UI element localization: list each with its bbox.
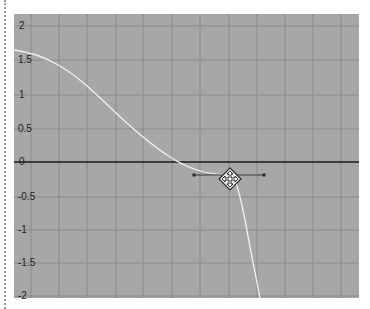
- tangent-out-handle[interactable]: [263, 174, 266, 177]
- y-label: 1: [19, 89, 25, 100]
- y-label: -1: [18, 224, 27, 235]
- svg-text:-2: -2: [18, 290, 27, 301]
- tangent-in-handle[interactable]: [193, 174, 196, 177]
- svg-text:-1.5: -1.5: [18, 257, 36, 268]
- y-label: -2: [18, 290, 27, 301]
- svg-text:2: 2: [19, 20, 25, 31]
- y-label: 2: [19, 20, 25, 31]
- y-label: -0.5: [18, 191, 36, 202]
- graph-background: [14, 14, 359, 298]
- svg-text:0.5: 0.5: [18, 123, 32, 134]
- svg-text:1: 1: [19, 89, 25, 100]
- svg-text:-0.5: -0.5: [18, 191, 36, 202]
- y-label: -1.5: [18, 257, 36, 268]
- svg-text:-1: -1: [18, 224, 27, 235]
- svg-text:0: 0: [19, 156, 25, 167]
- y-label: 1.5: [18, 54, 32, 65]
- svg-text:1.5: 1.5: [18, 54, 32, 65]
- y-label: 0.5: [18, 123, 32, 134]
- curve-graph[interactable]: 2 1.5 1 0.5 0 -0.5 -1 -1.5 -2: [0, 0, 370, 309]
- y-label: 0: [19, 156, 25, 167]
